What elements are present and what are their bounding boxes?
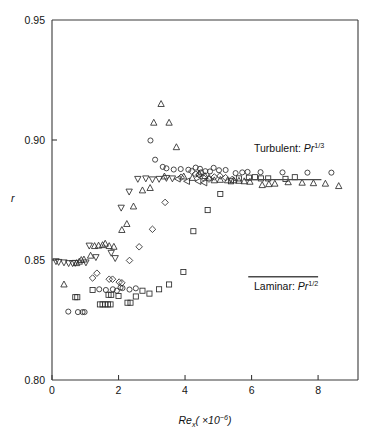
data-point xyxy=(90,287,95,292)
data-point xyxy=(127,287,132,292)
data-point xyxy=(233,171,238,176)
annotation-turbulent-label: Turbulent: Pr1/3 xyxy=(254,141,324,154)
data-point xyxy=(149,177,155,183)
data-point xyxy=(116,293,121,298)
y-axis-tick-labels: 0.800.850.900.95 xyxy=(25,14,46,386)
figure-scatter-recovery-factor: 02468 0.800.850.900.95 Turbulent: Pr1/3 … xyxy=(0,0,377,437)
x-tick-label: 0 xyxy=(49,384,55,396)
data-point xyxy=(305,170,310,175)
data-point xyxy=(124,221,130,227)
data-point xyxy=(171,167,176,172)
data-point xyxy=(125,300,130,305)
data-point xyxy=(147,185,153,191)
data-point xyxy=(166,119,172,125)
data-point xyxy=(217,173,224,180)
data-point xyxy=(153,157,158,162)
data-point xyxy=(112,256,118,262)
data-point xyxy=(162,199,169,206)
data-point xyxy=(66,309,71,314)
data-point xyxy=(216,168,221,173)
data-point xyxy=(211,165,216,170)
data-point xyxy=(151,119,157,125)
data-point xyxy=(133,294,138,299)
data-point xyxy=(136,244,143,251)
data-point xyxy=(139,187,145,193)
data-point xyxy=(158,101,164,107)
x-axis-title: Rex( ×10−6) xyxy=(179,413,232,428)
data-point xyxy=(280,170,285,175)
y-tick-label: 0.80 xyxy=(25,374,46,386)
data-point xyxy=(119,227,125,233)
data-point xyxy=(240,170,245,175)
x-tick-label: 2 xyxy=(116,384,122,396)
data-point xyxy=(245,169,250,174)
data-point xyxy=(147,291,152,296)
data-point xyxy=(157,287,162,292)
data-point xyxy=(128,300,133,305)
data-point xyxy=(73,295,78,300)
y-axis-title: r xyxy=(11,192,15,204)
data-point xyxy=(143,176,149,182)
data-point xyxy=(148,138,153,143)
data-point xyxy=(272,180,278,186)
data-point xyxy=(103,287,108,292)
data-point xyxy=(130,203,136,209)
data-point xyxy=(310,180,316,186)
data-point xyxy=(126,189,132,195)
data-point xyxy=(75,295,80,300)
series-triangle-up xyxy=(61,101,342,287)
x-tick-label: 4 xyxy=(182,384,188,396)
data-point xyxy=(97,287,102,292)
data-point xyxy=(149,226,156,233)
data-point xyxy=(135,176,141,182)
data-point xyxy=(205,208,210,213)
x-axis-ticks xyxy=(52,375,318,380)
data-point xyxy=(178,166,183,171)
y-tick-label: 0.90 xyxy=(25,134,46,146)
y-tick-label: 0.95 xyxy=(25,14,46,26)
data-point xyxy=(195,178,201,184)
data-point xyxy=(189,174,195,180)
x-tick-label: 8 xyxy=(315,384,321,396)
data-point xyxy=(258,170,263,175)
y-axis-ticks xyxy=(52,140,57,260)
chart-canvas: 02468 0.800.850.900.95 Turbulent: Pr1/3 … xyxy=(0,0,377,437)
data-point xyxy=(322,180,328,186)
x-tick-label: 6 xyxy=(249,384,255,396)
data-point xyxy=(89,275,96,282)
data-point xyxy=(181,269,186,274)
series-triangle-down xyxy=(53,175,176,266)
data-point xyxy=(167,282,172,287)
data-point xyxy=(133,286,138,291)
data-point xyxy=(126,257,133,264)
series-diamond xyxy=(89,168,235,286)
plot-frame xyxy=(52,20,358,380)
data-point xyxy=(140,288,145,293)
x-axis-tick-labels: 02468 xyxy=(49,384,321,396)
data-point xyxy=(336,183,342,189)
data-point xyxy=(218,191,223,196)
data-point xyxy=(259,182,265,188)
data-point xyxy=(223,167,228,172)
data-point xyxy=(94,270,101,277)
data-point xyxy=(173,144,179,150)
annotation-laminar-label: Laminar: Pr1/2 xyxy=(254,279,318,292)
y-tick-label: 0.85 xyxy=(25,254,46,266)
annotation-lines-layer xyxy=(244,180,321,277)
data-point xyxy=(329,170,334,175)
data-point xyxy=(191,229,196,234)
data-point xyxy=(266,181,272,187)
data-point xyxy=(118,205,124,211)
data-point xyxy=(61,281,67,287)
